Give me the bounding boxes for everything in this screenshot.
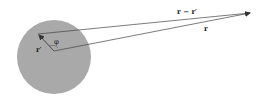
vector-r-minus-rprime [38,13,250,34]
label-r: r [204,25,208,32]
charge-distribution-sphere [17,20,91,94]
label-rprime: r′ [36,46,42,53]
label-r-minus-rprime: r − r′ [177,8,197,15]
vector-r [54,13,250,51]
label-phi: φ [54,39,59,46]
